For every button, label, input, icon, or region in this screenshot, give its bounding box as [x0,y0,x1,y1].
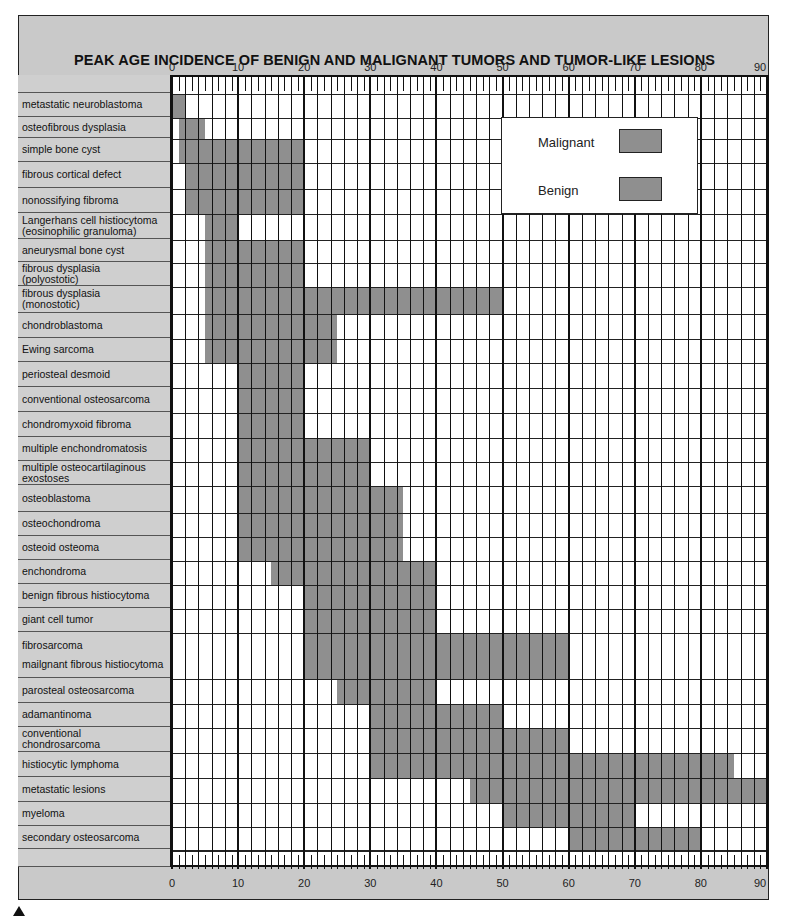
tick-mark [390,77,391,91]
tick-mark [747,855,748,869]
grid-line [450,77,451,869]
tick-mark [390,855,391,869]
tick-mark [681,77,682,91]
tick-mark [205,855,206,869]
x-tick-label: 30 [364,877,376,889]
range-bar [205,215,238,241]
row-label-text: myeloma [22,808,65,819]
tick-mark [708,855,709,869]
tick-mark [337,855,338,869]
tick-mark [668,855,669,869]
row-label-text: adamantinoma [22,709,91,720]
triangle-marker-icon [13,906,25,916]
row-label: conventional osteosarcoma [18,387,170,412]
x-tick-label: 80 [695,61,707,73]
row-label: enchondroma [18,560,170,584]
tick-mark [232,855,233,869]
tick-mark [575,77,576,91]
tick-mark [351,77,352,91]
grid-line [291,77,292,869]
grid-line [476,77,477,869]
tick-mark [589,77,590,91]
row-label: myeloma [18,802,170,826]
row-divider [172,561,767,562]
tick-mark [708,77,709,91]
grid-line [265,77,266,869]
x-tick-label: 30 [364,61,376,73]
tick-mark [232,77,233,91]
tick-mark [496,77,497,91]
tick-mark [496,855,497,869]
grid-line [463,77,464,869]
legend-malignant-swatch [619,129,662,153]
tick-mark [681,855,682,869]
row-label-text: fibrous cortical defect [22,169,121,180]
tick-mark [536,77,537,91]
tick-mark [417,77,418,91]
row-divider [172,679,767,680]
tick-mark [668,77,669,91]
row-label: metastatic lesions [18,777,170,802]
grid-line [344,77,345,869]
range-bar [271,562,436,586]
range-bar [470,779,768,804]
tick-mark [721,855,722,869]
row-label: secondary osteosarcoma [18,826,170,849]
tick-mark [655,77,656,91]
row-label-text: enchondroma [22,566,86,577]
grid-line [278,77,279,869]
grid-line [198,77,199,869]
row-divider [172,851,767,852]
tick-mark [218,77,219,91]
row-label: simple bone cyst [18,138,170,162]
tick-mark [522,77,523,91]
tick-mark [430,855,431,869]
row-label-text: benign fibrous histiocytoma [22,590,149,601]
row-label: metastatic neuroblastoma [18,93,170,117]
tick-mark [549,855,550,869]
row-label: chondromyxoid fibroma [18,412,170,437]
tick-mark [509,77,510,91]
x-tick-label: 0 [169,61,175,73]
tick-mark [483,855,484,869]
x-tick-label: 50 [496,61,508,73]
row-labels-column: metastatic neuroblastomaosteofibrous dys… [18,75,172,867]
grid-line [423,77,424,869]
row-label: histiocytic lymphoma [18,752,170,777]
x-tick-label: 20 [298,61,310,73]
grid-line [225,77,226,869]
row-label-text: fibrosarcoma [22,640,163,651]
row-label: aneurysmal bone cyst [18,239,170,262]
tick-mark [337,77,338,91]
row-label: fibrous cortical defect [18,162,170,188]
tick-mark [655,855,656,869]
row-label-text: periosteal desmoid [22,369,110,380]
tick-mark [179,855,180,869]
row-label-text: exostoses [22,473,146,484]
row-label-text: osteofibrous dysplasia [22,122,126,133]
row-label-text: multiple enchondromatosis [22,443,147,454]
row-label-text: osteoid osteoma [22,542,99,553]
tick-mark [298,77,299,91]
grid-line [317,77,318,869]
label-footer-spacer [18,849,170,867]
x-tick-label: 60 [563,61,575,73]
row-label-text: chondrosarcoma [22,739,100,750]
tick-mark [443,855,444,869]
grid-line [700,77,702,869]
range-bar [238,538,403,562]
row-label: Ewing sarcoma [18,338,170,362]
tick-mark [575,855,576,869]
grid-line [384,77,385,869]
row-label: parosteal osteosarcoma [18,678,170,703]
tick-mark [324,855,325,869]
tick-mark [364,77,365,91]
row-label: chondroblastoma [18,313,170,338]
tick-mark [562,77,563,91]
tick-mark [549,77,550,91]
tick-mark [589,855,590,869]
tick-mark [522,855,523,869]
row-label-text: nonossifying fibroma [22,195,118,206]
x-tick-label: 10 [232,877,244,889]
tick-mark [602,77,603,91]
